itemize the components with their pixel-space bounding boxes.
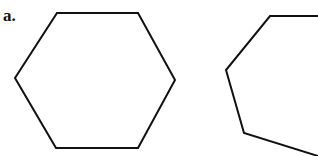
hexagon-shape: [15, 13, 175, 148]
geometry-figure: a.: [0, 0, 318, 156]
partial-polygon-shape: [226, 16, 318, 156]
figure-canvas: a.: [0, 0, 318, 156]
figure-label-a: a.: [3, 6, 16, 25]
